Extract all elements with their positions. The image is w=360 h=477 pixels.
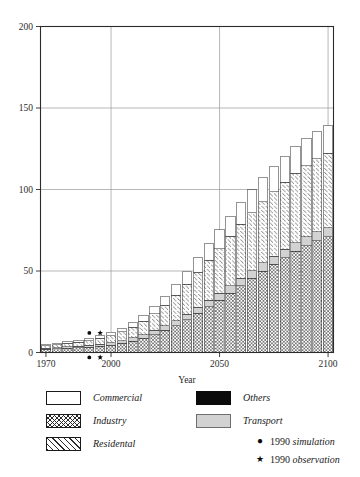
legend-label-simulation: 1990 simulation xyxy=(270,436,335,447)
svg-text:2100: 2100 xyxy=(319,359,338,369)
observation-year: 1990 xyxy=(270,454,290,465)
star-marker-icon: ★ xyxy=(254,455,266,464)
svg-text:100: 100 xyxy=(19,185,34,195)
legend: Commercial Industry Residental Others Tr… xyxy=(0,386,360,477)
chart-container: 0501001502001970200020502100Year Commerc… xyxy=(0,0,360,477)
observation-kind: observation xyxy=(293,454,340,465)
legend-label-industry: Industry xyxy=(93,415,126,426)
svg-text:0: 0 xyxy=(28,348,33,358)
svg-text:2000: 2000 xyxy=(102,359,121,369)
svg-text:50: 50 xyxy=(24,266,34,276)
legend-label-observation: 1990 observation xyxy=(270,454,340,465)
svg-text:200: 200 xyxy=(19,22,34,32)
legend-item-simulation: ● 1990 simulation xyxy=(196,432,340,450)
svg-text:2050: 2050 xyxy=(210,359,229,369)
bars-layer xyxy=(41,126,332,353)
svg-text:150: 150 xyxy=(19,103,34,113)
legend-label-commercial: Commercial xyxy=(93,392,142,403)
legend-item-commercial: Commercial xyxy=(46,386,142,409)
legend-item-transport: Transport xyxy=(196,409,340,432)
legend-label-others: Others xyxy=(243,392,270,403)
swatch-transport-icon xyxy=(196,414,231,428)
legend-column-right: Others Transport ● 1990 simulation ★ 199… xyxy=(196,386,340,468)
legend-label-residental: Residental xyxy=(93,438,135,449)
simulation-year: 1990 xyxy=(270,436,290,447)
legend-column-left: Commercial Industry Residental xyxy=(46,386,142,455)
stacked-bar-chart: 0501001502001970200020502100Year xyxy=(0,0,360,386)
dot-marker-icon: ● xyxy=(254,436,266,446)
x-axis-title: Year xyxy=(178,375,196,385)
svg-text:1970: 1970 xyxy=(36,359,55,369)
legend-item-residental: Residental xyxy=(46,432,142,455)
swatch-others-icon xyxy=(196,391,231,405)
legend-label-transport: Transport xyxy=(243,415,282,426)
legend-item-industry: Industry xyxy=(46,409,142,432)
swatch-residental-icon xyxy=(46,437,81,451)
legend-item-others: Others xyxy=(196,386,340,409)
swatch-industry-icon xyxy=(46,414,81,428)
swatch-commercial-icon xyxy=(46,391,81,405)
legend-item-observation: ★ 1990 observation xyxy=(196,450,340,468)
simulation-kind: simulation xyxy=(293,436,335,447)
